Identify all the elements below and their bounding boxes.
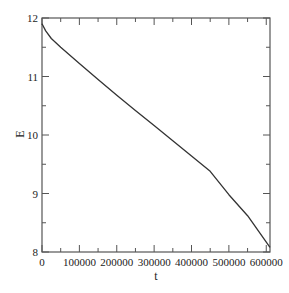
x-tick-label: 400000 bbox=[175, 256, 209, 268]
x-tick-label: 0 bbox=[39, 256, 45, 268]
y-tick-label: 12 bbox=[27, 12, 38, 24]
y-tick-label: 9 bbox=[33, 188, 39, 200]
y-tick-label: 11 bbox=[27, 71, 38, 83]
plot-frame bbox=[42, 18, 270, 252]
y-tick-label: 10 bbox=[27, 129, 39, 141]
data-series bbox=[42, 24, 270, 248]
x-tick-label: 600000 bbox=[250, 256, 284, 268]
x-tick-label: 200000 bbox=[100, 256, 134, 268]
x-axis-ticks: 0100000200000300000400000500000600000 bbox=[39, 18, 283, 268]
x-tick-label: 100000 bbox=[63, 256, 97, 268]
line-chart: 0100000200000300000400000500000600000 89… bbox=[0, 0, 289, 293]
x-tick-label: 300000 bbox=[138, 256, 172, 268]
x-tick-label: 500000 bbox=[212, 256, 246, 268]
y-tick-label: 8 bbox=[33, 246, 39, 258]
plot-border bbox=[42, 18, 270, 252]
series-line bbox=[42, 24, 270, 248]
y-axis-label: E bbox=[13, 130, 27, 137]
x-axis-label: t bbox=[154, 269, 158, 283]
